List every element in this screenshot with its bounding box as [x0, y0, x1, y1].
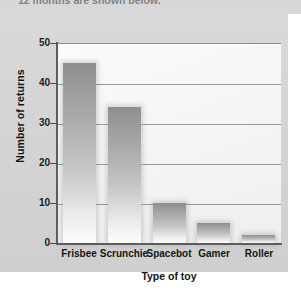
x-axis-line — [56, 243, 282, 245]
y-tick-label-50: 50 — [22, 38, 50, 48]
y-tick-label-20: 20 — [22, 158, 50, 168]
y-tick-label-0: 0 — [22, 238, 50, 248]
y-tick-40 — [50, 83, 57, 84]
bar-gamer — [197, 223, 230, 243]
y-axis-title: Number of returns — [14, 51, 26, 181]
y-tick-label-40: 40 — [22, 78, 50, 88]
y-tick-30 — [50, 123, 57, 124]
chart-figure-panel: 50 40 30 20 10 0 Number of returns Frisb… — [0, 12, 288, 272]
y-tick-label-10: 10 — [22, 198, 50, 208]
y-axis-line — [56, 42, 58, 244]
y-tick-50 — [50, 43, 57, 44]
caption-text: 12 months are shown below. — [18, 0, 161, 6]
bar-spacebot — [153, 203, 186, 243]
y-tick-label-30: 30 — [22, 118, 50, 128]
x-axis-title: Type of toy — [57, 270, 281, 282]
plot-area — [57, 43, 281, 243]
bar-roller — [242, 235, 275, 243]
y-tick-20 — [50, 163, 57, 164]
y-tick-10 — [50, 203, 57, 204]
bar-scrunchie — [108, 107, 141, 243]
bar-frisbee — [63, 63, 96, 243]
x-tick-label-roller: Roller — [224, 248, 294, 259]
